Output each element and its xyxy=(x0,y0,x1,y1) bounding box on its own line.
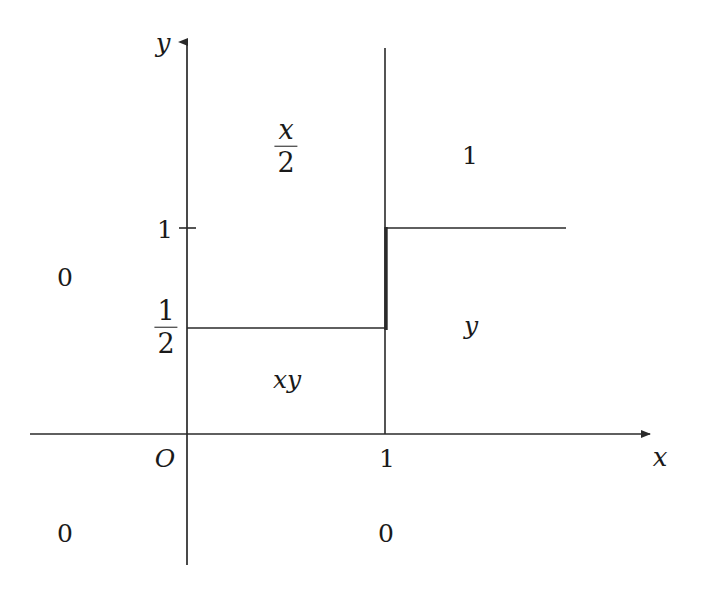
x-tick-one-label: 1 xyxy=(379,446,395,471)
origin-label: O xyxy=(155,446,176,471)
y-tick-half-denominator: 2 xyxy=(154,329,177,358)
region-label-zero-left: 0 xyxy=(57,265,73,290)
region-label-xy: xy xyxy=(273,367,301,392)
region-label-x-over-2: x 2 xyxy=(274,116,297,177)
y-tick-half-label: 1 2 xyxy=(154,297,177,358)
y-tick-half-numerator: 1 xyxy=(154,297,177,326)
region-label-y-right: y xyxy=(464,313,478,338)
region-label-one-upper-right: 1 xyxy=(462,143,478,168)
region-label-zero-lower-right: 0 xyxy=(378,521,394,546)
x-axis-label: x xyxy=(653,444,668,470)
axes-and-lines-layer xyxy=(0,0,705,592)
region-label-x-over-2-numerator: x xyxy=(274,116,297,145)
y-tick-one-label: 1 xyxy=(157,217,173,242)
region-label-x-over-2-denominator: 2 xyxy=(274,148,297,177)
region-label-zero-lower-left: 0 xyxy=(57,521,73,546)
diagram-canvas: y x O 1 1 2 1 x 2 1 0 xy y 0 0 xyxy=(0,0,705,592)
y-axis-label: y xyxy=(156,30,171,56)
